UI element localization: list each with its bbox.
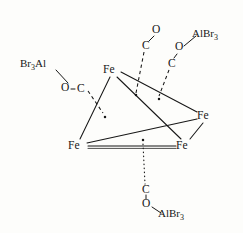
group-albr3-left: Br3Al [20,58,46,72]
dotted-bond-c-bottom [143,144,145,184]
atom-label-fe-bottom-right: Fe [176,140,188,152]
group-albr3-left-suffix: Al [35,57,46,69]
bridging-dashed-bonds [88,52,169,113]
group-albr3-bottom-prefix: AlBr [158,207,180,219]
group-albr3-top-prefix: AlBr [192,27,214,39]
atom-label-c-left: C [77,83,85,95]
bridge-dot-left [104,116,107,119]
atom-label-c-bottom: C [142,184,150,196]
bridge-dot-top [135,94,138,97]
fe-cluster-skeleton [80,72,203,148]
dashed-bond-c-left [88,91,103,113]
atom-label-fe-top: Fe [103,64,115,76]
bond-feright-febottomright [190,123,203,139]
bridging-dotted-bond [143,144,145,184]
bridging-site-dots [104,94,161,142]
atom-label-o-left: O [61,82,70,94]
group-albr3-bottom: AlBr3 [158,208,184,222]
atom-label-o-bottom: O [142,198,151,210]
bridge-dot-bottom [142,139,145,142]
bridge-dot-right [158,98,161,101]
group-albr3-left-prefix: Br [20,57,31,69]
atom-label-fe-bottom-left: Fe [68,140,80,152]
atom-label-fe-right: Fe [197,110,209,122]
group-albr3-bottom-subscript: 3 [180,213,184,222]
group-albr3-top: AlBr3 [192,28,218,42]
group-albr3-top-subscript: 3 [214,33,218,42]
dashed-bond-c-right [159,70,169,96]
atom-label-c-right: C [168,58,176,70]
dashed-bond-c-top [136,52,144,93]
atom-label-c-top: C [142,40,150,52]
atom-label-o-top: O [152,24,161,36]
atom-label-o-right: O [175,41,184,53]
